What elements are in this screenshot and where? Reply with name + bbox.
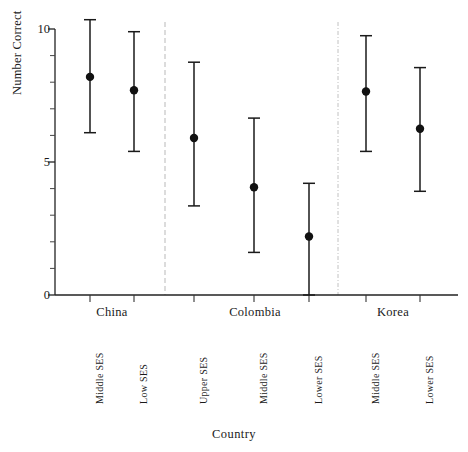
ses-label-4: Lower SES: [313, 355, 324, 404]
data-marker-1: [130, 86, 138, 94]
data-point-group-0: [84, 20, 96, 133]
data-point-group-3: [248, 118, 260, 252]
data-point-group-2: [188, 62, 200, 206]
data-marker-0: [86, 73, 94, 81]
data-point-group-4: [303, 183, 315, 295]
group-label-china: China: [82, 305, 142, 320]
data-point-group-6: [414, 68, 426, 192]
ses-label-5: Middle SES: [370, 352, 381, 404]
group-label-colombia: Colombia: [215, 305, 295, 320]
ses-label-3: Middle SES: [258, 352, 269, 404]
data-marker-3: [250, 183, 258, 191]
data-marker-6: [416, 125, 424, 133]
ses-label-1: Low SES: [138, 364, 149, 404]
ses-label-6: Lower SES: [424, 355, 435, 404]
data-point-group-1: [128, 32, 140, 152]
ses-label-2: Upper SES: [198, 357, 209, 404]
data-point-group-5: [360, 36, 372, 152]
ses-label-0: Middle SES: [94, 352, 105, 404]
data-marker-5: [362, 87, 370, 95]
chart-plot-area: [0, 0, 468, 452]
data-marker-4: [305, 232, 313, 240]
chart-container: Number Correct Country 10 5 0: [0, 0, 468, 452]
data-marker-2: [190, 134, 198, 142]
group-label-korea: Korea: [363, 305, 423, 320]
